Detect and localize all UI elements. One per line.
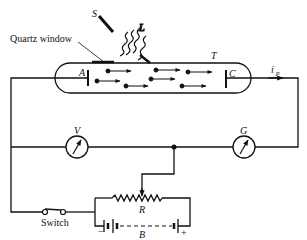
tube-label: T — [211, 50, 218, 61]
circuit-wires — [11, 78, 298, 226]
photoelectric-circuit-diagram: S L Quartz window T A C — [0, 0, 307, 240]
light-source: S — [92, 8, 113, 32]
galvanometer-label: G — [240, 125, 247, 136]
current-subscript: p — [275, 69, 280, 77]
junction-node — [172, 145, 177, 150]
battery-negative-label: − — [98, 226, 104, 237]
battery-positive-label: + — [181, 227, 187, 238]
anode-label: A — [78, 67, 86, 78]
current-label: i — [271, 64, 274, 75]
current-indicator: i p — [268, 64, 283, 78]
quartz-window-pointer — [78, 42, 104, 62]
switch-label: Switch — [41, 217, 69, 228]
electrons — [95, 68, 212, 88]
quartz-window-label: Quartz window — [10, 33, 73, 44]
switch: Switch — [41, 209, 69, 228]
light-rays: L — [120, 22, 146, 60]
battery-label: B — [139, 229, 145, 240]
voltmeter-label: V — [74, 125, 82, 136]
rheostat: R — [112, 188, 162, 215]
galvanometer: G — [233, 125, 255, 158]
light-label: L — [138, 22, 145, 33]
quartz-window-edge — [140, 55, 150, 63]
source-label: S — [92, 8, 97, 19]
anode-plate: A — [78, 67, 88, 86]
rheostat-label: R — [138, 204, 145, 215]
battery: B − + — [98, 219, 187, 240]
voltmeter: V — [66, 125, 88, 158]
